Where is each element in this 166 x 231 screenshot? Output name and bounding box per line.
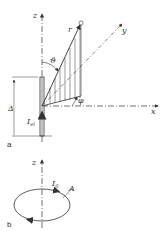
theta-label: ϑ <box>50 56 56 65</box>
figure-a: z x y r ϑ φ Δ Iel a <box>7 11 158 149</box>
length-label: Δ <box>7 104 14 113</box>
y-axis <box>42 24 122 106</box>
z-axis-label-b: z <box>31 158 37 167</box>
radius-vector <box>42 25 80 106</box>
panel-label-b: b <box>7 220 12 229</box>
phi-label: φ <box>78 96 84 105</box>
area-label: A <box>68 184 75 193</box>
z-axis-label: z <box>32 11 38 20</box>
loop-current-label: I0 <box>51 179 59 189</box>
figure-b: z I0 A b <box>7 158 75 229</box>
current-label: Iel <box>26 117 35 127</box>
x-axis-label: x <box>151 107 156 116</box>
y-axis-label: y <box>121 26 127 35</box>
diagram-canvas: z x y r ϑ φ Δ Iel a z I0 A b <box>0 0 166 231</box>
loop-current-arrow-top <box>53 190 59 192</box>
observation-point <box>79 21 83 25</box>
projection-hatching <box>50 28 80 104</box>
panel-label-a: a <box>7 140 12 149</box>
radius-label: r <box>68 25 73 34</box>
